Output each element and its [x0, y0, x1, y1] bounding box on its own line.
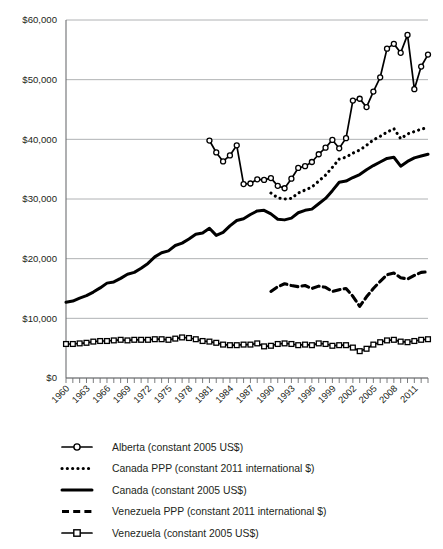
legend-item[interactable]: Alberta (constant 2005 US$)	[62, 442, 243, 453]
data-point-alberta	[262, 177, 267, 182]
data-point-venezuela	[350, 345, 355, 350]
x-axis-tick-label: 1990	[254, 383, 277, 406]
data-point-venezuela	[371, 342, 376, 347]
data-point-venezuela	[337, 343, 342, 348]
data-point-venezuela	[364, 346, 369, 351]
data-point-venezuela	[426, 337, 431, 342]
data-point-venezuela	[228, 343, 233, 348]
data-point-venezuela	[405, 340, 410, 345]
x-axis-tick-label: 2011	[398, 383, 420, 405]
data-point-alberta	[207, 138, 212, 143]
legend-marker-circle	[74, 444, 80, 450]
data-point-venezuela	[323, 342, 328, 347]
data-point-alberta	[221, 159, 226, 164]
data-point-venezuela	[173, 336, 178, 341]
data-point-alberta	[337, 146, 342, 151]
x-axis-tick-label: 1963	[69, 383, 92, 406]
data-point-venezuela	[193, 337, 198, 342]
data-point-alberta	[248, 181, 253, 186]
series-line-alberta	[209, 35, 428, 188]
series-group	[64, 32, 431, 353]
x-axis-tick-label: 1984	[213, 383, 236, 406]
data-point-venezuela	[241, 342, 246, 347]
data-point-alberta	[398, 50, 403, 55]
data-point-alberta	[296, 165, 301, 170]
data-point-alberta	[350, 98, 355, 103]
data-point-venezuela	[200, 339, 205, 344]
y-axis-labels-group: $0$10,000$20,000$30,000$40,000$50,000$60…	[22, 14, 57, 383]
data-point-alberta	[214, 150, 219, 155]
x-axis-tick-label: 2008	[377, 383, 400, 406]
data-point-alberta	[419, 64, 424, 69]
data-point-venezuela	[180, 335, 185, 340]
data-point-alberta	[241, 182, 246, 187]
data-point-venezuela	[344, 343, 349, 348]
x-axis-tick-label: 1981	[192, 383, 215, 406]
legend-item[interactable]: Canada (constant 2005 US$)	[62, 485, 247, 496]
x-axis-tick-label: 1975	[151, 383, 174, 406]
data-point-venezuela	[139, 337, 144, 342]
data-point-venezuela	[262, 344, 267, 349]
data-point-alberta	[391, 41, 396, 46]
data-point-venezuela	[166, 337, 171, 342]
data-point-venezuela	[111, 338, 116, 343]
series-canada	[66, 154, 428, 302]
data-point-alberta	[412, 87, 417, 92]
data-point-alberta	[323, 145, 328, 150]
series-venezuela	[64, 335, 431, 354]
data-point-venezuela	[269, 343, 274, 348]
y-axis-tick-label: $50,000	[22, 74, 57, 85]
x-axis-tick-label: 1996	[295, 383, 318, 406]
legend-item[interactable]: Venezuela PPP (constant 2011 internation…	[62, 506, 327, 517]
data-point-alberta	[275, 183, 280, 188]
legend-item[interactable]: Canada PPP (constant 2011 international …	[62, 463, 314, 474]
data-point-venezuela	[64, 342, 69, 347]
data-point-venezuela	[234, 343, 239, 348]
data-point-venezuela	[152, 337, 157, 342]
legend-item-label: Canada (constant 2005 US$)	[112, 485, 247, 496]
x-axis-tick-label: 1978	[172, 383, 195, 406]
data-point-venezuela	[91, 339, 96, 344]
data-point-alberta	[289, 176, 294, 181]
x-axis-tick-label: 1987	[233, 383, 256, 406]
data-point-alberta	[234, 143, 239, 148]
data-point-alberta	[371, 89, 376, 94]
chart-figure: $0$10,000$20,000$30,000$40,000$50,000$60…	[0, 0, 443, 549]
x-axis-tick-label: 1960	[49, 383, 72, 406]
data-point-alberta	[385, 46, 390, 51]
legend-item-label: Venezuela (constant 2005 US$)	[112, 528, 259, 539]
y-axis-tick-label: $30,000	[22, 193, 57, 204]
data-point-venezuela	[214, 340, 219, 345]
data-point-venezuela	[412, 339, 417, 344]
data-point-venezuela	[303, 342, 308, 347]
legend-marker-square	[74, 530, 80, 536]
legend-item[interactable]: Venezuela (constant 2005 US$)	[62, 528, 259, 539]
data-point-venezuela	[146, 337, 151, 342]
x-axis-labels-group: 1960196319661969197219751978198119841987…	[49, 383, 420, 406]
data-point-alberta	[255, 177, 260, 182]
x-axis-tick-label: 2002	[336, 383, 359, 406]
legend-item-label: Canada PPP (constant 2011 international …	[112, 463, 314, 474]
data-point-venezuela	[385, 338, 390, 343]
data-point-alberta	[357, 96, 362, 101]
data-point-venezuela	[357, 349, 362, 354]
data-point-alberta	[309, 160, 314, 165]
data-point-venezuela	[77, 341, 82, 346]
data-point-alberta	[268, 176, 273, 181]
data-point-venezuela	[70, 342, 75, 347]
gridlines-group	[66, 20, 428, 378]
y-axis-tick-label: $10,000	[22, 313, 57, 324]
data-point-venezuela	[255, 341, 260, 346]
data-point-venezuela	[84, 340, 89, 345]
y-axis-tick-label: $20,000	[22, 253, 57, 264]
data-point-alberta	[282, 186, 287, 191]
data-point-alberta	[426, 52, 431, 57]
data-point-venezuela	[132, 337, 137, 342]
x-axis-tick-label: 2005	[356, 383, 379, 406]
data-point-venezuela	[296, 343, 301, 348]
series-venezuela_ppp	[271, 272, 428, 307]
data-point-venezuela	[391, 337, 396, 342]
data-point-alberta	[378, 75, 383, 80]
data-point-venezuela	[221, 342, 226, 347]
y-axis-tick-label: $40,000	[22, 134, 57, 145]
